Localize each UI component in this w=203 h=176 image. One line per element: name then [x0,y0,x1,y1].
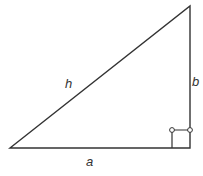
marker-dot-right [188,128,193,133]
side-b-label: b [192,74,199,89]
side-a-label: a [86,154,93,169]
right-triangle-diagram: h b a [0,0,203,176]
triangle-outline [10,6,190,148]
hypotenuse-label: h [65,76,72,91]
marker-dot-left [170,128,175,133]
right-angle-marker [170,128,193,148]
